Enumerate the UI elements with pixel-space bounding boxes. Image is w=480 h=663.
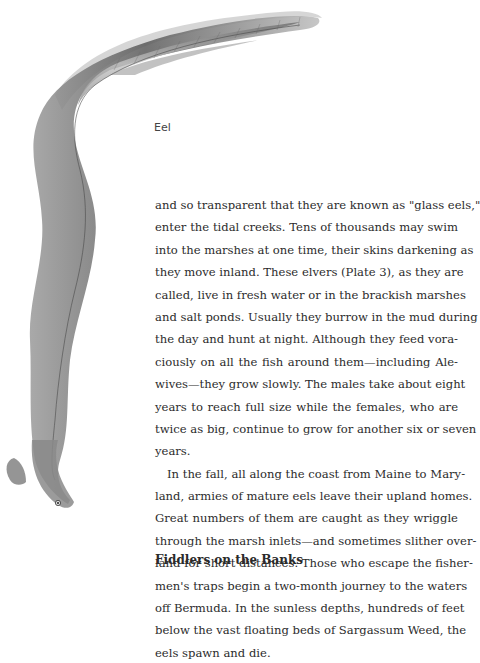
text-line: below the vast floating beds of Sargassu…	[155, 619, 458, 641]
text-line: twice as big, continue to grow for anoth…	[155, 418, 458, 440]
text-line: Great numbers of them are caught as they…	[155, 507, 458, 529]
text-line: enter the tidal creeks. Tens of thousand…	[155, 216, 458, 238]
text-line: called, live in fresh water or in the br…	[155, 284, 458, 306]
text-line: and salt ponds. Usually they burrow in t…	[155, 306, 458, 328]
section-heading: Fiddlers on the Banks	[155, 553, 303, 567]
text-line: the day and hunt at night. Although they…	[155, 328, 458, 350]
text-line: and so transparent that they are known a…	[155, 194, 458, 216]
text-line: through the marsh inlets—and sometimes s…	[155, 530, 458, 552]
text-line: In the fall, all along the coast from Ma…	[155, 463, 458, 485]
figure-caption: Eel	[154, 121, 171, 134]
text-line: off Bermuda. In the sunless depths, hund…	[155, 597, 458, 619]
body-text: and so transparent that they are known a…	[155, 194, 458, 663]
text-line: they move inland. These elvers (Plate 3)…	[155, 261, 458, 283]
text-line: years.	[155, 440, 458, 462]
text-line: years to reach full size while the femal…	[155, 396, 458, 418]
text-line: eels spawn and die.	[155, 642, 458, 663]
text-line: land, armies of mature eels leave their …	[155, 485, 458, 507]
text-line: into the marshes at one time, their skin…	[155, 239, 458, 261]
text-line: men's traps begin a two-month journey to…	[155, 575, 458, 597]
text-line: ciously on all the fish around them—incl…	[155, 351, 458, 373]
paragraph-1: and so transparent that they are known a…	[155, 194, 458, 463]
text-line: wives—they grow slowly. The males take a…	[155, 373, 458, 395]
